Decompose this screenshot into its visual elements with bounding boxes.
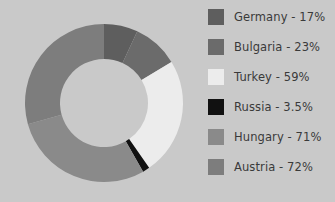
legend-label-turkey: Turkey - 59% bbox=[234, 69, 310, 85]
legend-item-bulgaria[interactable]: Bulgaria - 23% bbox=[208, 39, 335, 55]
donut-chart-svg bbox=[0, 0, 205, 202]
legend-label-russia: Russia - 3.5% bbox=[234, 99, 313, 115]
donut-slice-hungary[interactable] bbox=[28, 115, 143, 182]
legend-label-germany: Germany - 17% bbox=[234, 9, 325, 25]
legend-label-bulgaria: Bulgaria - 23% bbox=[234, 39, 320, 55]
legend-swatch-austria bbox=[208, 159, 224, 175]
legend-item-germany[interactable]: Germany - 17% bbox=[208, 9, 335, 25]
legend-swatch-bulgaria bbox=[208, 39, 224, 55]
legend-label-austria: Austria - 72% bbox=[234, 159, 313, 175]
legend-item-hungary[interactable]: Hungary - 71% bbox=[208, 129, 335, 145]
legend-item-turkey[interactable]: Turkey - 59% bbox=[208, 69, 335, 85]
legend-swatch-russia bbox=[208, 99, 224, 115]
donut-slice-austria[interactable] bbox=[25, 24, 104, 124]
legend-swatch-hungary bbox=[208, 129, 224, 145]
chart-page: Germany - 17% Bulgaria - 23% Turkey - 59… bbox=[0, 0, 335, 202]
legend-item-russia[interactable]: Russia - 3.5% bbox=[208, 99, 335, 115]
donut-chart bbox=[0, 0, 205, 202]
donut-slice-group bbox=[25, 24, 183, 182]
legend-swatch-turkey bbox=[208, 69, 224, 85]
legend-label-hungary: Hungary - 71% bbox=[234, 129, 321, 145]
legend-swatch-germany bbox=[208, 9, 224, 25]
chart-legend: Germany - 17% Bulgaria - 23% Turkey - 59… bbox=[208, 9, 335, 195]
legend-item-austria[interactable]: Austria - 72% bbox=[208, 159, 335, 175]
